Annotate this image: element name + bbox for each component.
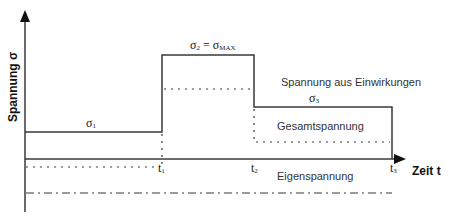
sigma3-label: σ3 bbox=[309, 91, 319, 106]
residual-stress-legend: Eigenspannung bbox=[277, 170, 353, 182]
y-axis-arrow-icon bbox=[20, 10, 30, 22]
stress-time-diagram bbox=[0, 0, 450, 224]
sigma2-equals: = σ bbox=[200, 38, 219, 52]
y-axis-label: Spannung σ bbox=[6, 42, 20, 132]
x-axis-label: Zeit t bbox=[412, 164, 441, 178]
applied-stress-line bbox=[25, 55, 392, 159]
t2-label: t2 bbox=[251, 161, 258, 176]
t1-label: t1 bbox=[158, 161, 165, 176]
t2-subscript: 2 bbox=[254, 167, 258, 175]
sigma2-label: σ2 = σMAX bbox=[190, 38, 236, 53]
sigma-max-subscript: MAX bbox=[219, 44, 235, 52]
t3-subscript: 3 bbox=[393, 167, 397, 175]
t3-label: t3 bbox=[390, 161, 397, 176]
sigma3-subscript: 3 bbox=[315, 97, 319, 105]
applied-stress-legend: Spannung aus Einwirkungen bbox=[281, 76, 421, 88]
total-stress-legend: Gesamtspannung bbox=[277, 120, 364, 132]
t1-subscript: 1 bbox=[161, 167, 165, 175]
sigma1-label: σ1 bbox=[86, 116, 96, 131]
sigma1-subscript: 1 bbox=[92, 122, 96, 130]
